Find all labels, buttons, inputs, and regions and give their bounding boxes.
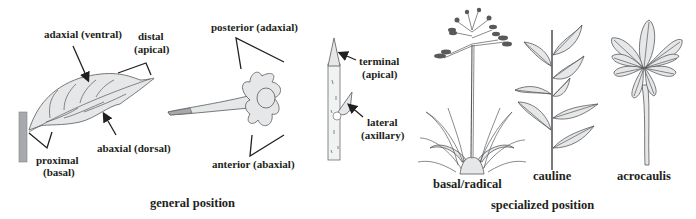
distal-sub-label: (apical) xyxy=(134,43,170,56)
basal-radical-label: basal/radical xyxy=(433,177,502,191)
abaxial-label: abaxial (dorsal) xyxy=(97,142,171,155)
posterior-label: posterior (adaxial) xyxy=(211,21,298,34)
adaxial-label: adaxial (ventral) xyxy=(44,28,122,41)
acrocaulis-label: acrocaulis xyxy=(617,169,671,183)
leaf-position-diagram: adaxial (ventral) distal (apical) abaxia… xyxy=(0,0,696,219)
cauline-label: cauline xyxy=(533,169,572,183)
terminal-sub-label: (apical) xyxy=(362,68,398,81)
general-position-caption: general position xyxy=(150,196,235,210)
proximal-sub-label: (basal) xyxy=(43,166,75,179)
anterior-label: anterior (abaxial) xyxy=(212,158,295,171)
terminal-label: terminal xyxy=(359,55,399,67)
specialized-position-caption: specialized position xyxy=(491,198,594,212)
proximal-label: proximal xyxy=(36,154,79,166)
terminal-bud xyxy=(328,38,340,66)
stem-base xyxy=(19,112,27,162)
acrocaulis-plant xyxy=(611,20,682,165)
lateral-sub-label: (axillary) xyxy=(361,129,405,142)
distal-label: distal xyxy=(138,30,164,42)
lateral-label: lateral xyxy=(367,116,398,128)
flower-illustration xyxy=(168,38,284,156)
stem-bud-illustration xyxy=(328,38,363,160)
basal-radical-plant xyxy=(418,8,526,174)
cauline-plant xyxy=(515,25,598,170)
